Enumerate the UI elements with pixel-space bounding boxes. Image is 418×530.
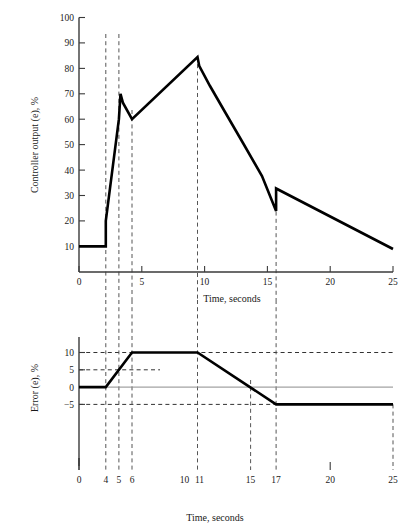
dual-plot-svg: 100 90 80 70 60 50 40 30 20 10 — [0, 0, 418, 530]
bottom-chart-x-ticks — [79, 458, 330, 470]
y-tick-label-80: 80 — [65, 64, 75, 74]
x-tick-label-b6: 6 — [130, 475, 135, 485]
bottom-chart-y-axis-title: Error (e), % — [29, 364, 41, 412]
bottom-chart-x-tick-labels: 0 4 5 6 10 11 15 17 20 25 — [77, 475, 398, 485]
x-tick-label-b17: 17 — [271, 475, 281, 485]
y-tick-label-40: 40 — [65, 166, 75, 176]
top-chart-x-axis-title: Time, seconds — [203, 293, 261, 304]
x-tick-label-b20: 20 — [325, 475, 335, 485]
x-tick-label-20: 20 — [325, 277, 335, 287]
top-chart-x-tick-labels: 0 5 10 15 20 25 — [77, 277, 398, 287]
top-chart-x-ticks — [79, 266, 393, 272]
y-tick-label-30: 30 — [65, 191, 75, 201]
y-tick-label-b5: 5 — [69, 365, 74, 375]
top-chart-y-ticks — [79, 18, 85, 247]
y-tick-label-50: 50 — [65, 140, 75, 150]
y-tick-label-100: 100 — [60, 13, 75, 23]
y-tick-label-bminus5: −5 — [64, 400, 74, 410]
y-tick-label-20: 20 — [65, 216, 75, 226]
y-tick-label-90: 90 — [65, 38, 75, 48]
figure-container: 100 90 80 70 60 50 40 30 20 10 — [0, 0, 418, 530]
y-tick-label-70: 70 — [65, 89, 75, 99]
controller-output-curve — [79, 57, 393, 249]
x-tick-label-0: 0 — [77, 277, 82, 287]
x-tick-label-5: 5 — [139, 277, 144, 287]
error-signal-curve — [79, 353, 393, 405]
x-tick-label-15: 15 — [263, 277, 273, 287]
bottom-chart-y-ticks — [79, 353, 85, 405]
bottom-chart-vertical-markers — [106, 300, 393, 470]
top-chart-y-axis-title: Controller output (e), % — [29, 97, 41, 193]
top-chart: 100 90 80 70 60 50 40 30 20 10 — [29, 13, 398, 304]
x-tick-label-10: 10 — [200, 277, 210, 287]
y-tick-label-b10: 10 — [65, 348, 75, 358]
y-tick-label-60: 60 — [65, 115, 75, 125]
x-tick-label-b25: 25 — [388, 475, 398, 485]
x-tick-label-b10: 10 — [180, 475, 190, 485]
x-tick-label-b11: 11 — [195, 475, 204, 485]
x-tick-label-b15: 15 — [246, 475, 256, 485]
bottom-chart-x-axis-title: Time, seconds — [186, 512, 244, 523]
top-chart-y-tick-labels: 100 90 80 70 60 50 40 30 20 10 — [60, 13, 75, 252]
x-tick-label-b4: 4 — [103, 475, 108, 485]
x-tick-label-b5: 5 — [117, 475, 122, 485]
x-tick-label-b0: 0 — [77, 475, 82, 485]
top-chart-vertical-markers — [106, 34, 276, 300]
x-tick-label-25: 25 — [388, 277, 398, 287]
bottom-chart-y-tick-labels: 10 5 0 −5 — [64, 348, 74, 410]
bottom-chart: 10 5 0 −5 0 4 5 6 10 11 15 17 20 2 — [29, 300, 398, 523]
y-tick-label-b0: 0 — [69, 383, 74, 393]
y-tick-label-10: 10 — [65, 242, 75, 252]
